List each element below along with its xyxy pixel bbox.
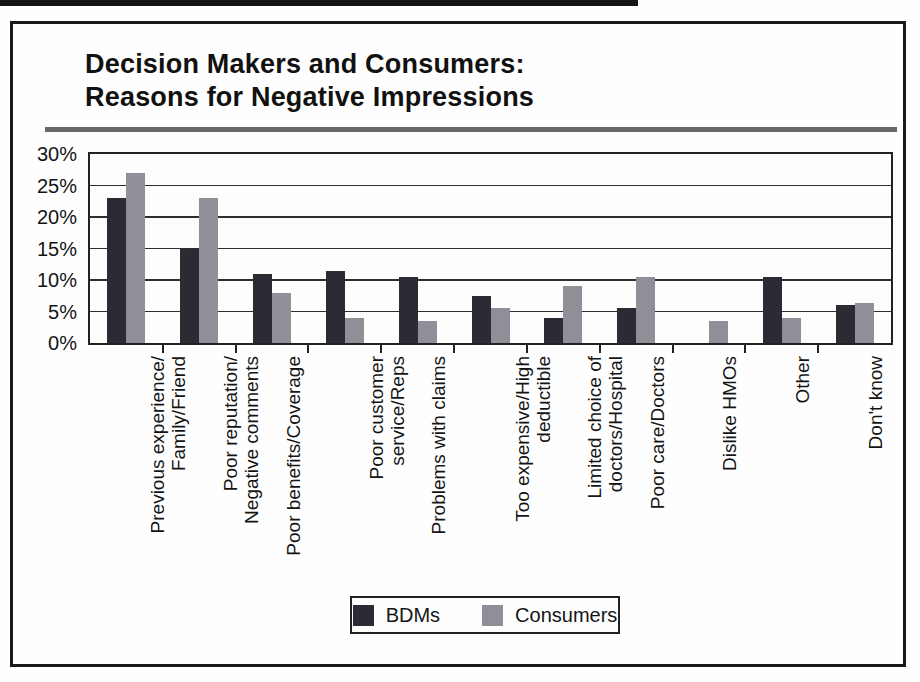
y-tick-label-5pct: 5% [13,301,77,323]
x-category-label-11: Don't know [865,356,886,581]
chart-frame: Decision Makers and Consumers: Reasons f… [10,21,906,667]
bar-consumers-6 [491,308,510,343]
x-axis-tick [817,345,819,353]
x-axis-tick [380,345,382,353]
x-category-label-1: Previous experience/ Family/Friend [147,356,189,581]
x-category-label-4: Poor customer service/Reps [366,356,408,581]
x-category-label-9: Dislike HMOs [719,356,740,581]
chart-title: Decision Makers and Consumers: Reasons f… [85,48,534,114]
x-category-label-8: Poor care/Doctors [647,356,668,581]
bar-consumers-2 [199,198,218,343]
title-underline-rule [45,127,897,132]
page-top-rule [0,0,638,6]
x-axis-tick [526,345,528,353]
bar-bdms-11 [836,305,855,343]
bar-consumers-5 [418,321,437,343]
bar-bdms-3 [253,274,272,343]
bar-bdms-10 [763,277,782,343]
y-tick-label-20pct: 20% [13,206,77,228]
bar-consumers-4 [345,318,364,343]
legend: BDMs Consumers [350,596,620,634]
x-axis-tick [162,345,164,353]
bar-bdms-8 [617,308,636,343]
x-axis-tick [307,345,309,353]
bar-consumers-3 [272,293,291,343]
bar-bdms-4 [326,271,345,343]
plot-inner [90,154,891,343]
bar-consumers-7 [563,286,582,343]
x-axis-tick [599,345,601,353]
y-tick-label-25pct: 25% [13,175,77,197]
bar-consumers-9 [709,321,728,343]
bar-bdms-7 [544,318,563,343]
x-axis-tick [453,345,455,353]
y-tick-label-10pct: 10% [13,269,77,291]
x-axis-tick [672,345,674,353]
plot-area [88,152,893,345]
scanned-chart-page: Decision Makers and Consumers: Reasons f… [0,0,920,682]
legend-label-bdms: BDMs [386,604,440,627]
bar-consumers-11 [855,303,874,343]
y-tick-label-15pct: 15% [13,238,77,260]
x-category-label-5: Problems with claims [428,356,449,581]
x-category-label-2: Poor reputation/ Negative comments [220,356,262,581]
bar-consumers-8 [636,277,655,343]
bar-bdms-5 [399,277,418,343]
bar-bdms-1 [107,198,126,343]
x-axis-tick [235,345,237,353]
x-category-label-3: Poor benefits/Coverage [283,356,304,581]
bar-bdms-2 [180,249,199,344]
y-tick-label-30pct: 30% [13,143,77,165]
bar-bdms-6 [472,296,491,343]
x-axis-tick [744,345,746,353]
chart-title-line2: Reasons for Negative Impressions [85,81,534,114]
bar-consumers-10 [782,318,801,343]
chart-title-line1: Decision Makers and Consumers: [85,48,534,81]
gridline-25pct [90,185,891,187]
x-category-label-10: Other [792,356,813,581]
y-tick-label-0pct: 0% [13,332,77,354]
legend-swatch-bdms [353,605,374,626]
legend-label-consumers: Consumers [515,604,617,627]
x-category-label-6: Too expensive/High deductible [512,356,554,581]
legend-swatch-consumers [482,605,503,626]
x-category-label-7: Limited choice of doctors/Hospital [584,356,626,581]
bar-consumers-1 [126,173,145,343]
